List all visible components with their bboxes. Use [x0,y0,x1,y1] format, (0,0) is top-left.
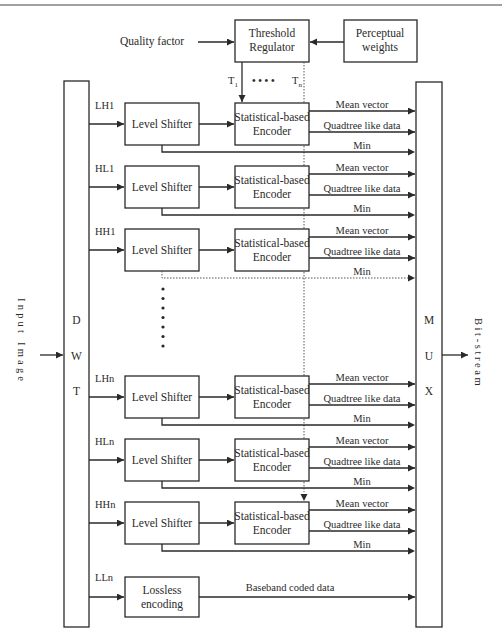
mean-vector-label: Mean vector [336,162,389,173]
mux-letter-x: X [425,385,434,397]
band-label-lln: LLn [95,572,114,583]
subband-row-lhn: LHnLevel ShifterStatistical-basedEncoder… [89,372,415,429]
encoder-label-line2: Encoder [253,461,291,473]
min-arrowhead [408,275,415,282]
mux-letter-m: M [424,314,434,326]
min-arrowhead [408,149,415,156]
perceptual-weights-label-line1: Perceptual [356,27,405,40]
threshold-t1-label: T1 [228,75,238,89]
band-label-hhn: HHn [95,499,116,510]
mux-block: M U X [416,82,442,627]
ellipsis-dot [161,306,164,309]
level-shifter-label: Level Shifter [132,517,193,529]
level-shifter-label: Level Shifter [132,181,193,193]
baseband-row: LLn Lossless encoding Baseband coded dat… [89,572,415,617]
ellipsis-dot [161,297,164,300]
subband-row-hl1: HL1Level ShifterStatistical-basedEncoder… [89,162,415,219]
dwt-block: D W T [64,81,89,627]
level-shifter-label: Level Shifter [132,118,193,130]
quadtree-data-label: Quadtree like data [324,393,401,404]
quadtree-data-label: Quadtree like data [324,246,401,257]
quadtree-data-label: Quadtree like data [324,456,401,467]
min-path [162,481,413,488]
statistical-encoder-block [235,103,309,145]
min-path [162,145,413,152]
lossless-encoding-block [125,577,199,617]
min-path [162,418,413,425]
lossless-encoding-label-line1: Lossless [143,584,183,596]
encoder-label-line1: Statistical-based [234,237,310,249]
encoder-label-line2: Encoder [253,125,291,137]
mean-vector-label: Mean vector [336,372,389,383]
threshold-tn-arrowhead [301,494,308,501]
ellipsis-dot [161,287,164,290]
threshold-dots: • • • • [252,75,275,86]
ellipsis-dot [161,325,164,328]
min-label: Min [353,140,371,151]
subband-row-hh1: HH1Level ShifterStatistical-basedEncoder… [89,225,415,282]
quadtree-data-label: Quadtree like data [324,519,401,530]
min-path [162,271,413,278]
dwt-encoder-block-diagram: Quality factor Threshold Regulator Perce… [0,0,502,634]
mean-vector-label: Mean vector [336,225,389,236]
band-label-hh1: HH1 [95,226,115,237]
statistical-encoder-block [235,439,309,481]
mean-vector-label: Mean vector [336,435,389,446]
subband-row-hhn: HHnLevel ShifterStatistical-basedEncoder… [89,498,415,555]
min-path [162,544,413,551]
encoder-label-line2: Encoder [253,188,291,200]
subband-rows: LH1Level ShifterStatistical-basedEncoder… [89,99,415,555]
encoder-label-line1: Statistical-based [234,174,310,186]
band-label-lhn: LHn [95,373,115,384]
min-label: Min [353,476,371,487]
min-arrowhead [408,212,415,219]
statistical-encoder-block [235,229,309,271]
min-label: Min [353,413,371,424]
mean-vector-label: Mean vector [336,498,389,509]
threshold-tn-label: Tn [292,75,302,89]
encoder-label-line2: Encoder [253,251,291,263]
encoder-label-line1: Statistical-based [234,447,310,459]
band-label-hl1: HL1 [95,163,114,174]
ellipsis-dot [161,335,164,338]
perceptual-weights-block: Perceptual weights [344,20,417,62]
min-arrowhead [408,548,415,555]
encoder-label-line2: Encoder [253,524,291,536]
level-shifter-label: Level Shifter [132,244,193,256]
mux-letter-u: U [425,350,434,362]
threshold-regulator-block: Threshold Regulator [235,20,309,62]
ellipsis-dot [161,344,164,347]
level-shifter-label: Level Shifter [132,391,193,403]
dwt-letter-w: W [71,350,82,362]
threshold-regulator-label-line2: Regulator [249,41,295,54]
threshold-regulator-label-line1: Threshold [249,27,296,39]
min-label: Min [353,203,371,214]
input-image-label: Input Image [16,298,27,384]
min-path [162,208,413,215]
encoder-label-line1: Statistical-based [234,510,310,522]
bit-stream-label: Bit-stream [473,318,484,388]
min-label: Min [353,539,371,550]
statistical-encoder-block [235,376,309,418]
vertical-ellipsis [161,287,164,347]
min-label: Min [353,266,371,277]
subband-row-hln: HLnLevel ShifterStatistical-basedEncoder… [89,435,415,492]
band-label-lh1: LH1 [95,100,114,111]
lossless-encoding-label-line2: encoding [141,598,183,611]
level-shifter-label: Level Shifter [132,454,193,466]
dwt-letter-d: D [72,314,80,326]
dwt-letter-t: T [73,385,80,397]
ellipsis-dot [161,316,164,319]
encoder-label-line1: Statistical-based [234,384,310,396]
min-arrowhead [408,485,415,492]
statistical-encoder-block [235,166,309,208]
quadtree-data-label: Quadtree like data [324,183,401,194]
quadtree-data-label: Quadtree like data [324,120,401,131]
perceptual-weights-label-line2: weights [362,41,398,54]
quality-factor-label: Quality factor [120,35,184,48]
subband-row-lh1: LH1Level ShifterStatistical-basedEncoder… [89,99,415,156]
mean-vector-label: Mean vector [336,99,389,110]
statistical-encoder-block [235,502,309,544]
band-label-hln: HLn [95,436,115,447]
min-arrowhead [408,422,415,429]
